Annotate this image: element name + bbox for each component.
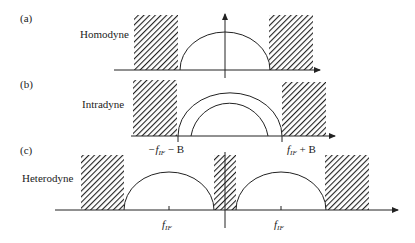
hatched-band-left	[133, 80, 177, 136]
panel-tag-c: (c)	[20, 144, 33, 157]
label-fif-plus-b: fIF + B	[287, 143, 316, 157]
panel-tag-b: (b)	[20, 78, 33, 91]
spectrum-diagram: (a) Homodyne (b) Intradyne −fIF − B fIF …	[0, 0, 415, 243]
signal-spectrum-arc-narrow	[191, 103, 268, 136]
label-minus-fif: fIF	[162, 218, 172, 232]
label-minus-fif-minus-b: −fIF − B	[148, 143, 184, 157]
panel-homodyne: (a) Homodyne	[20, 12, 320, 78]
panel-label-homodyne: Homodyne	[80, 28, 129, 40]
panel-label-intradyne: Intradyne	[82, 98, 124, 110]
panel-label-heterodyne: Heterodyne	[22, 172, 73, 184]
signal-spectrum-arc-positive	[236, 172, 326, 210]
hatched-band-right	[325, 155, 369, 210]
hatched-band-right	[282, 82, 326, 136]
hatched-band-left	[81, 155, 124, 210]
label-fif: fIF	[274, 218, 284, 232]
panel-intradyne: (b) Intradyne −fIF − B fIF + B	[20, 78, 335, 157]
panel-heterodyne: (c) Heterodyne fIF fIF	[20, 144, 398, 232]
signal-spectrum-arc-negative	[124, 172, 214, 210]
hatched-band-right	[269, 15, 313, 70]
panel-tag-a: (a)	[20, 12, 33, 25]
hatched-band-left	[134, 15, 178, 70]
